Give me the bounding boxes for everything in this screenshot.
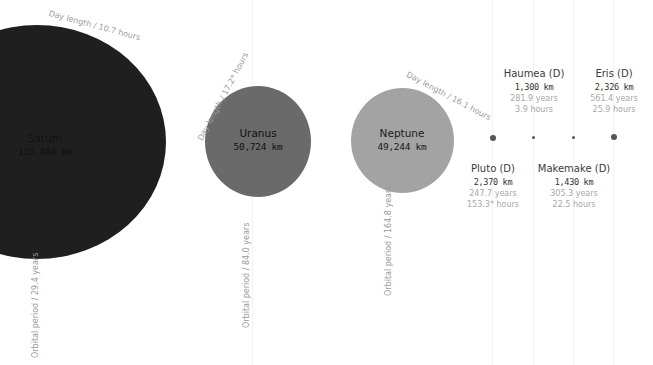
- dwarf-orbital-period: 281.9 years: [494, 93, 574, 104]
- dwarf-diameter: 1,430 km: [534, 176, 614, 188]
- solar-system-diagram: Saturn 116,464 km Day length / 10.7 hour…: [0, 0, 653, 365]
- dwarf-planet-eris-label: Eris (D) 2,326 km 561.4 years 25.9 hours: [574, 67, 653, 115]
- planet-uranus-label: Uranus 50,724 km: [222, 126, 294, 154]
- planet-neptune-label: Neptune 49,244 km: [366, 126, 438, 154]
- dwarf-name: Haumea (D): [494, 67, 574, 81]
- dwarf-planet-eris-dot: [611, 134, 617, 140]
- planet-diameter: 49,244 km: [366, 140, 438, 154]
- dwarf-day-length: 153.3* hours: [453, 199, 533, 210]
- planet-diameter: 50,724 km: [222, 140, 294, 154]
- dwarf-name: Eris (D): [574, 67, 653, 81]
- planet-diameter: 116,464 km: [10, 145, 80, 159]
- dwarf-planet-pluto-dot: [490, 135, 496, 141]
- dwarf-orbital-period: 305.3 years: [534, 188, 614, 199]
- dwarf-planet-makemake-label: Makemake (D) 1,430 km 305.3 years 22.5 h…: [534, 162, 614, 210]
- dwarf-name: Pluto (D): [453, 162, 533, 176]
- planet-name: Neptune: [366, 126, 438, 140]
- dwarf-name: Makemake (D): [534, 162, 614, 176]
- orbital-period-label: Orbital period / 84.0 years: [242, 223, 251, 328]
- dwarf-orbital-period: 247.7 years: [453, 188, 533, 199]
- planet-name: Uranus: [222, 126, 294, 140]
- planet-name: Saturn: [10, 131, 80, 145]
- dwarf-planet-haumea-dot: [532, 136, 535, 139]
- dwarf-orbital-period: 561.4 years: [574, 93, 653, 104]
- planet-saturn-label: Saturn 116,464 km: [10, 131, 80, 159]
- orbital-period-label: Orbital period / 29.4 years: [31, 253, 40, 358]
- dwarf-diameter: 2,370 km: [453, 176, 533, 188]
- dwarf-day-length: 22.5 hours: [534, 199, 614, 210]
- dwarf-planet-haumea-label: Haumea (D) 1,300 km 281.9 years 3.9 hour…: [494, 67, 574, 115]
- dwarf-day-length: 25.9 hours: [574, 104, 653, 115]
- dwarf-day-length: 3.9 hours: [494, 104, 574, 115]
- dwarf-planet-makemake-dot: [572, 136, 575, 139]
- dwarf-diameter: 1,300 km: [494, 81, 574, 93]
- orbital-period-label: Orbital period / 164.8 years: [384, 186, 393, 296]
- dwarf-diameter: 2,326 km: [574, 81, 653, 93]
- dwarf-planet-pluto-label: Pluto (D) 2,370 km 247.7 years 153.3* ho…: [453, 162, 533, 210]
